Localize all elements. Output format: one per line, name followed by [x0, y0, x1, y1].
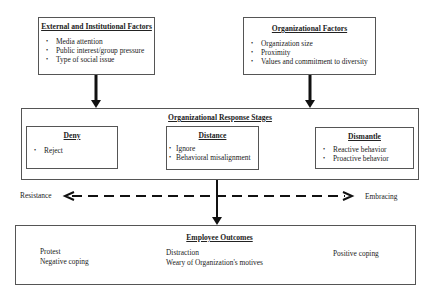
- response-stages-title: Organizational Response Stages: [22, 113, 418, 122]
- outcome-positive-coping: Positive coping: [333, 249, 379, 258]
- list-item: Proximity: [250, 48, 375, 57]
- external-factors-box: External and Institutional Factors Media…: [38, 17, 155, 75]
- outcome-weary: Weary of Organization's motives: [166, 258, 263, 267]
- stage-dismantle-list: Reactive behavior Proactive behavior: [322, 145, 413, 163]
- outcome-distraction: Distraction: [166, 248, 199, 257]
- list-item: Ignore: [168, 144, 258, 153]
- list-item: Type of social issue: [45, 55, 154, 64]
- stage-deny-box: Deny Reject: [26, 126, 118, 169]
- list-item: Values and commitment to diversity: [250, 57, 375, 66]
- stage-distance-title: Distance: [167, 131, 258, 140]
- list-item: Reject: [33, 146, 117, 155]
- employee-outcomes-title: Employee Outcomes: [16, 233, 415, 242]
- organizational-factors-title: Organizational Factors: [244, 24, 375, 33]
- stage-distance-box: Distance Ignore Behavioral misalignment: [166, 126, 259, 170]
- stage-dismantle-title: Dismantle: [316, 132, 413, 141]
- external-factors-list: Media attention Public interest/group pr…: [45, 37, 154, 64]
- list-item: Organization size: [250, 39, 375, 48]
- organizational-factors-box: Organizational Factors Organization size…: [243, 17, 376, 75]
- stage-distance-list: Ignore Behavioral misalignment: [168, 144, 258, 162]
- list-item: Proactive behavior: [322, 154, 413, 163]
- resistance-label: Resistance: [20, 191, 52, 200]
- list-item: Reactive behavior: [322, 145, 413, 154]
- stage-dismantle-box: Dismantle Reactive behavior Proactive be…: [315, 127, 414, 169]
- outcome-negative-coping: Negative coping: [40, 257, 89, 266]
- list-item: Behavioral misalignment: [168, 153, 258, 162]
- embracing-label: Embracing: [365, 192, 397, 201]
- external-factors-title: External and Institutional Factors: [39, 22, 154, 31]
- outcome-protest: Protest: [40, 247, 61, 256]
- stage-deny-title: Deny: [27, 131, 117, 140]
- list-item: Media attention: [45, 37, 154, 46]
- stage-deny-list: Reject: [33, 146, 117, 155]
- organizational-factors-list: Organization size Proximity Values and c…: [250, 39, 375, 66]
- list-item: Public interest/group pressure: [45, 46, 154, 55]
